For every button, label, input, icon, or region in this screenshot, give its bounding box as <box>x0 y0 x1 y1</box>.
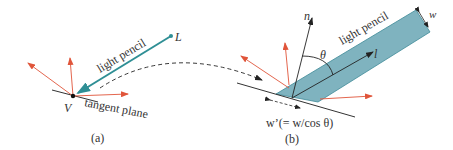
light-pencil-band <box>276 10 430 102</box>
reflected-ray-right <box>73 94 128 96</box>
vertex-point <box>71 94 75 98</box>
angle-theta-label: θ <box>320 48 326 62</box>
light-source-point <box>169 34 173 38</box>
caption-a: (a) <box>91 131 104 145</box>
light-point-label: L <box>174 30 182 44</box>
projected-width-marker <box>270 100 300 108</box>
reflected-ray-right-b <box>320 96 372 99</box>
caption-b: (b) <box>285 132 299 146</box>
panel-b: n l θ w light pencil w’(= w/cos θ) (b) <box>237 8 437 146</box>
panel-a: L V light pencil tangent plane (a) <box>28 30 182 145</box>
vertex-label: V <box>64 101 73 115</box>
width-label: w <box>429 8 437 20</box>
normal-label: n <box>304 9 310 23</box>
light-pencil-diagram: L V light pencil tangent plane (a) n l θ… <box>0 0 453 150</box>
tangent-plane-label: tangent plane <box>83 95 149 121</box>
reflected-ray-up-b <box>285 43 289 85</box>
transition-arc <box>100 63 262 88</box>
reflected-ray-left <box>28 63 73 96</box>
projected-width-label: w’(= w/cos θ) <box>266 116 333 130</box>
reflected-ray-left-b <box>241 56 289 88</box>
reflected-ray-up <box>70 58 73 96</box>
